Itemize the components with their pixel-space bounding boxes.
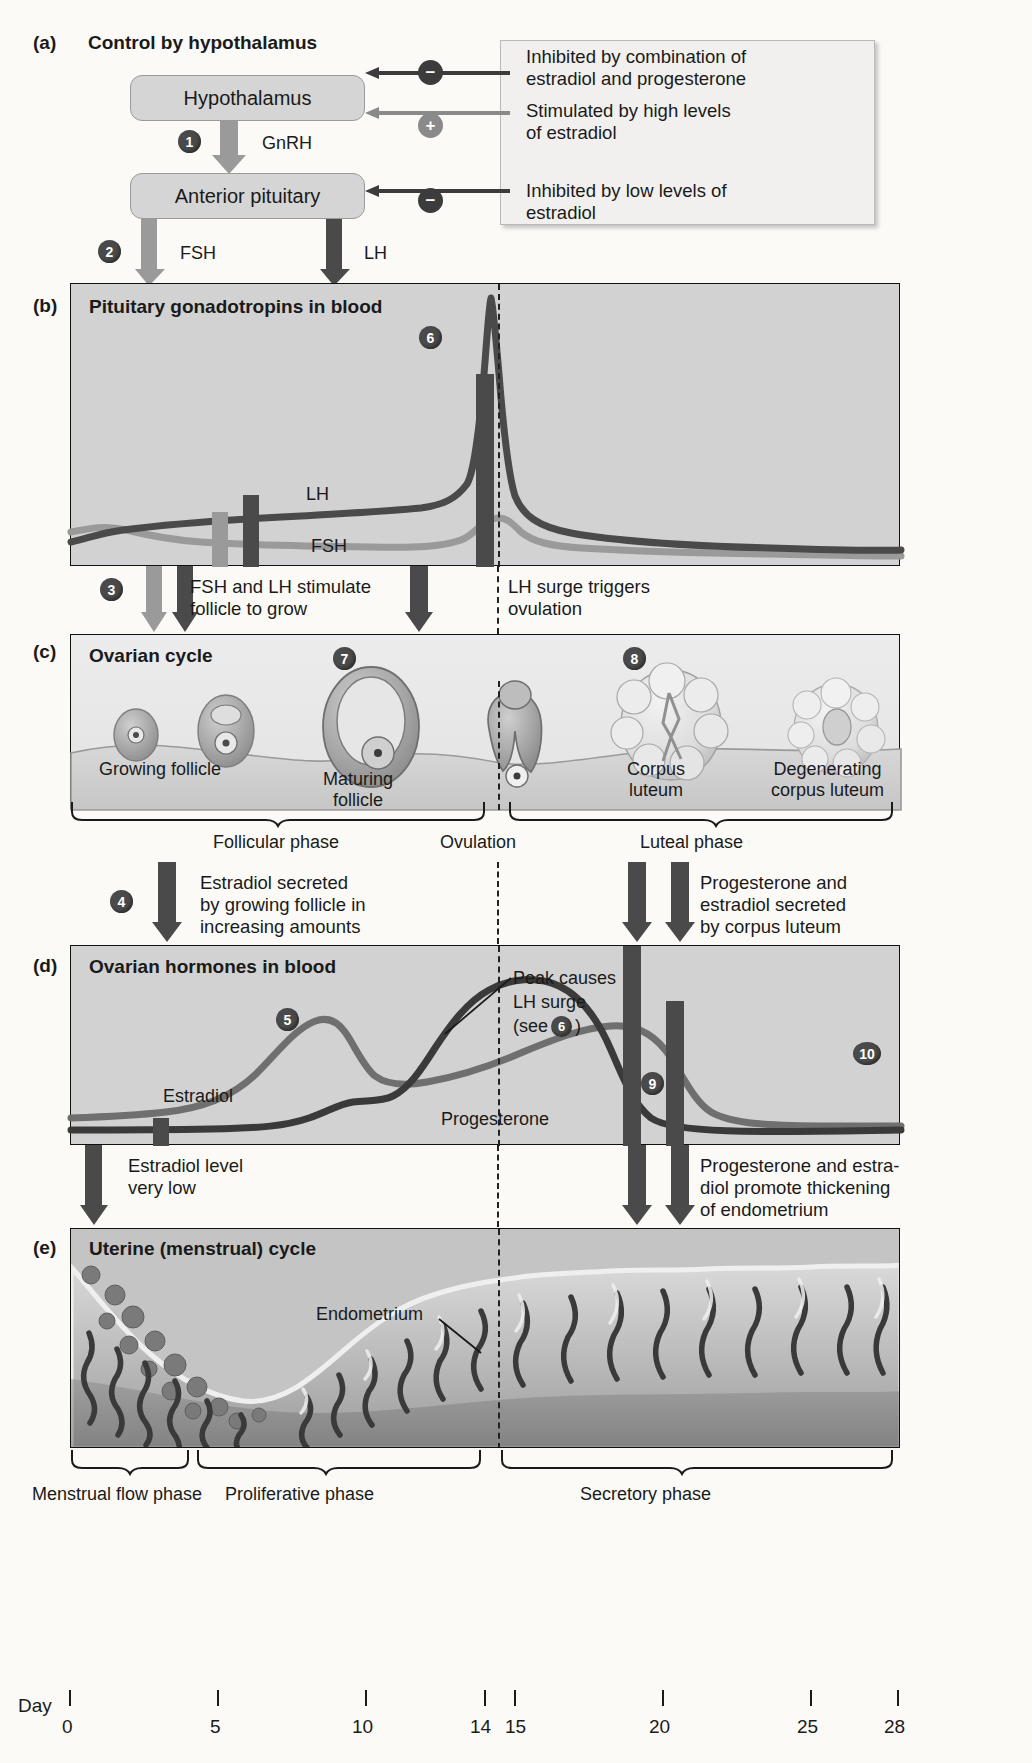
peak-callout-see-pre: (see: [513, 1016, 548, 1037]
feedback-text-3: Inhibited by low levels of estradiol: [526, 180, 856, 224]
panel-b-letter: (b): [33, 295, 57, 317]
ovulation-dashed-line-de: [497, 1145, 499, 1227]
lh-surge-bar: [476, 374, 494, 567]
peak-callout-line-1: Peak causes: [513, 968, 616, 989]
peak-callout-line-3: (see 6 ): [513, 1016, 581, 1037]
ovulation-dashed-line-bc: [497, 566, 499, 634]
minus-sign-icon-1: −: [418, 60, 443, 85]
fsh-stimulate-arrow: [141, 566, 171, 634]
step-3-marker: 3: [100, 578, 123, 601]
fsh-connector-bar: [212, 512, 228, 567]
peak-callout-see-post: ): [575, 1016, 581, 1037]
step-6-marker: 6: [419, 326, 442, 349]
progesterone-bar-1: [623, 946, 641, 1146]
uterine-phase-label-proliferative: Proliferative phase: [225, 1484, 374, 1505]
node-anterior-pituitary: Anterior pituitary: [130, 173, 365, 219]
uterine-phase-label-menstrual: Menstrual flow phase: [32, 1484, 202, 1505]
progesterone-secreted-arrow-2: [665, 862, 699, 944]
lh-surge-ovulation-text: LH surge triggers ovulation: [508, 576, 788, 620]
day-axis-ticks: [70, 1690, 910, 1710]
step-10-marker: 10: [853, 1042, 881, 1065]
endometrium-leader-line: [439, 1315, 485, 1357]
node-hypothalamus: Hypothalamus: [130, 75, 365, 121]
lh-connector-bar: [243, 495, 259, 567]
day-tick-15: 15: [505, 1716, 526, 1738]
estradiol-secreted-arrow: [152, 862, 186, 944]
day-tick-10: 10: [352, 1716, 373, 1738]
endometrium-illustration: [71, 1229, 900, 1448]
day-tick-14: 14: [470, 1716, 491, 1738]
node-hypothalamus-label: Hypothalamus: [184, 87, 312, 110]
label-degenerating-corpus-luteum: Degenerating corpus luteum: [771, 759, 884, 801]
lh-surge-ovulation-arrow: [405, 566, 437, 634]
estradiol-low-bar: [153, 1118, 169, 1146]
day-axis-label: Day: [18, 1695, 52, 1717]
ovulation-dashed-line-cd: [497, 862, 499, 944]
estradiol-low-arrow: [80, 1145, 112, 1227]
step-4-marker: 4: [110, 890, 133, 913]
endometrium-thicken-arrow-2: [665, 1145, 699, 1227]
day-tick-5: 5: [210, 1716, 221, 1738]
progesterone-curve-label: Progesterone: [441, 1109, 549, 1130]
panel-a-title: Control by hypothalamus: [88, 32, 317, 54]
estradiol-secreted-text: Estradiol secreted by growing follicle i…: [200, 872, 490, 939]
endometrium-label: Endometrium: [316, 1304, 423, 1325]
progesterone-estradiol-secreted-text: Progesterone and estradiol secreted by c…: [700, 872, 1000, 939]
panel-a-letter: (a): [33, 32, 56, 54]
panel-e-letter: (e): [33, 1237, 56, 1259]
gnrh-arrow: [212, 121, 252, 175]
lh-curve-label: LH: [306, 484, 329, 505]
label-growing-follicle: Growing follicle: [99, 759, 221, 780]
progesterone-secreted-arrow-1: [622, 862, 656, 944]
day-tick-0: 0: [62, 1716, 73, 1738]
step-6-reference-marker: 6: [551, 1016, 572, 1037]
feedback-text-1: Inhibited by combination of estradiol an…: [526, 46, 856, 90]
phase-braces-c: [70, 800, 900, 826]
minus-sign-icon-2: −: [418, 188, 443, 213]
peak-callout-leader: [443, 976, 513, 1036]
phase-label-luteal: Luteal phase: [640, 832, 743, 853]
estradiol-curve-label: Estradiol: [163, 1086, 233, 1107]
panel-e-title: Uterine (menstrual) cycle: [89, 1238, 316, 1260]
step-2-marker: 2: [98, 240, 121, 263]
phase-label-follicular: Follicular phase: [213, 832, 339, 853]
endometrium-thicken-text: Progesterone and estra- diol promote thi…: [700, 1155, 1010, 1222]
node-anterior-pituitary-label: Anterior pituitary: [175, 185, 321, 208]
plus-sign-icon: +: [418, 113, 443, 138]
day-tick-20: 20: [649, 1716, 670, 1738]
panel-e-plot: Uterine (menstrual) cycle: [70, 1228, 900, 1448]
panel-d-letter: (d): [33, 955, 57, 977]
endometrium-thicken-arrow-1: [622, 1145, 656, 1227]
day-tick-25: 25: [797, 1716, 818, 1738]
fsh-arrow: [135, 219, 169, 287]
step-9-marker: 9: [641, 1072, 664, 1095]
fsh-arrow-label: FSH: [180, 243, 216, 264]
panel-d-plot: Ovarian hormones in blood Peak causes LH…: [70, 945, 900, 1145]
day-tick-28: 28: [884, 1716, 905, 1738]
lh-arrow: [320, 219, 354, 287]
feedback-text-2: Stimulated by high levels of estradiol: [526, 100, 856, 144]
ovulation-dashed-line-c: [498, 681, 500, 810]
panel-c-letter: (c): [33, 641, 56, 663]
peak-callout-line-2: LH surge: [513, 992, 586, 1013]
fsh-curve-label: FSH: [311, 536, 347, 557]
estradiol-low-text: Estradiol level very low: [128, 1155, 388, 1199]
panel-c-plot: Ovarian cycle 7 8: [70, 634, 900, 809]
label-corpus-luteum: Corpus luteum: [627, 759, 685, 801]
progesterone-bar-2: [666, 1001, 684, 1146]
phase-braces-e: [70, 1448, 900, 1474]
step-1-marker: 1: [178, 130, 201, 153]
ovulation-dashed-line-b: [498, 284, 500, 567]
uterine-phase-label-secretory: Secretory phase: [580, 1484, 711, 1505]
ovulation-dashed-line-e: [498, 1229, 500, 1448]
lh-arrow-label: LH: [364, 243, 387, 264]
step-5-marker: 5: [276, 1008, 299, 1031]
gnrh-label: GnRH: [262, 133, 312, 154]
phase-label-ovulation: Ovulation: [440, 832, 516, 853]
panel-b-plot: Pituitary gonadotropins in blood 6 LH FS…: [70, 283, 900, 566]
